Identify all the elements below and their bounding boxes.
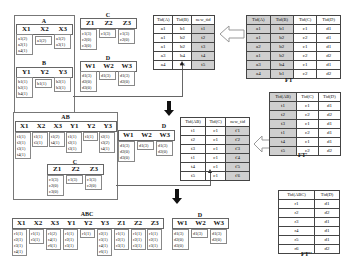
cell: r1(1)r5(1) — [29, 229, 44, 244]
tid-mapping-table-2: Tid(AB)Tid(C)new_tid t1c1t'1 t2c1t'2 t3c… — [180, 117, 250, 181]
cell: a1(2)a3(1) — [54, 34, 71, 49]
cell: d1(3)d2(0) — [210, 229, 227, 244]
header: W1W2W3 — [172, 218, 229, 229]
cell: a1(2) — [35, 36, 52, 45]
ft-prime-caption: FT' — [298, 152, 307, 158]
arrow-down-head — [172, 198, 182, 204]
cell: c1(3) — [99, 29, 116, 38]
ft-double-prime-caption: FT'' — [301, 251, 312, 257]
header: W1W2W3 — [118, 130, 175, 141]
node-AB: AB X1X2X3Y1Y2Y3 t1(1)t2(1)t3(1)t4(1) t1(… — [13, 112, 118, 184]
cell: t2(1)t3(2)t4(1) — [99, 132, 115, 153]
title: AB — [14, 114, 117, 120]
cell: d1(3)d2(0)d3(0) — [172, 229, 189, 250]
ft-prime-table: Tid(AB)Tid(C)Tid(D) t1c1d1 t2c2d2 t3c1d1… — [269, 92, 341, 156]
cell: r1(1)r2(1)r3(1) — [147, 229, 162, 250]
node-C-cells-overlay: c1(3)c2(0)c3(0) c1(3) c1(3)c2(0) — [47, 175, 103, 199]
title: B — [16, 60, 72, 66]
cell: d1(3) — [137, 141, 154, 150]
cell: r2(1)r3(1)r4(1)r6(1) — [97, 229, 112, 256]
cell: t1(1)t5(1) — [32, 132, 48, 147]
cell: t1(1)t2(1)t3(1) — [66, 132, 82, 153]
cell: r1(1)r2(1)r3(1) — [131, 229, 146, 250]
cell: t1(1) — [83, 132, 98, 141]
cell: r1(2)r4(1)r6(1) — [46, 229, 61, 250]
node-C: C Z1Z2Z3 c1(3)c2(0)c3(0) c1(3) c1(3)c2(0… — [80, 12, 136, 56]
cell: r1(1)r2(1)r3(1) — [114, 229, 129, 250]
tid-mapping-table-1: Tid(A)Tid(B)new_tid a1b1t1 a1b2t2 a1b2t3… — [153, 15, 215, 70]
node-B: B Y1Y2Y3 b1(1)b2(1)b4(1) b1(1) b2(1)b3(1… — [16, 59, 72, 109]
header: X1X2X3Y1Y2Y3 — [15, 121, 117, 132]
connector-line — [73, 96, 183, 97]
cell: t1(1)t2(1)t3(1)t4(1) — [15, 132, 31, 159]
ft-table: Tid(A)Tid(B)Tid(C)Tid(D) a1b1c1d1 a1b2c2… — [246, 15, 341, 79]
cell: d1(3) — [191, 229, 208, 238]
node-ABC: ABC X1X2X3Y1Y2Y3Z1Z2Z3 r1(1)r2(1)r3(1)r4… — [12, 210, 162, 268]
connector-line — [116, 185, 211, 186]
cell: d1(3) — [99, 71, 116, 80]
cell: b2(1)b3(1) — [54, 77, 71, 92]
ft-double-prime-table: Tid(ABC)Tid(D) r1d1 r2d2 r3d1 r4d1 r5d1 … — [278, 190, 340, 254]
cell: d1(3)d2(0) — [118, 71, 135, 86]
cell: a1(2)a2(1)a4(1) — [16, 34, 33, 55]
ft-caption: FT — [285, 77, 293, 83]
arrow-left-hollow-icon — [219, 25, 245, 43]
cell: c1(3)c2(0)c3(0) — [80, 29, 97, 50]
cell: d1(3)d2(0) — [156, 141, 173, 156]
cell: b1(1)b2(1)b4(1) — [16, 77, 33, 98]
title: ABC — [12, 211, 162, 217]
arrow-down-head — [164, 110, 174, 116]
cell: d1(3)d2(0)d3(0) — [80, 71, 97, 92]
cell: d1(3)d2(0)d3(0) — [118, 141, 135, 162]
cell: b1(1) — [35, 79, 52, 88]
cell: t1(2)t4(1) — [49, 132, 65, 147]
node-A: A X1X2X3 a1(2)a2(1)a4(1) a1(2) a1(2)a3(1… — [16, 17, 72, 57]
cell: r1(1)r2(1)r3(1) — [63, 229, 78, 250]
node-D-3: D W1W2W3 d1(3)d2(0)d3(0) d1(3) d1(3)d2(0… — [172, 212, 228, 256]
header: X1X2X3Y1Y2Y3Z1Z2Z3 — [12, 218, 164, 229]
cell: r1(1) — [80, 229, 95, 238]
cell: c1(3)c2(0) — [118, 29, 135, 44]
node-D: D W1W2W3 d1(3)d2(0)d3(0) d1(3) d1(3)d2(0… — [80, 55, 136, 99]
header: Z1Z2Z3 — [47, 164, 104, 175]
header: Z1Z2Z3 — [80, 18, 137, 29]
node-D-2: D W1W2W3 d1(3)d2(0)d3(0) d1(3) d1(3)d2(0… — [118, 128, 174, 172]
cell: r1(1)r2(1)r3(1)r4(1) — [12, 229, 27, 256]
